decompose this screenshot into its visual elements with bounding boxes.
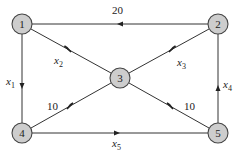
edge-label-10-left: 10 bbox=[47, 100, 59, 112]
edge-label-x2: x2 bbox=[53, 54, 63, 69]
arrow-down-icon bbox=[20, 83, 25, 89]
node-4: 4 bbox=[12, 123, 32, 143]
edge-label-x3: x3 bbox=[176, 56, 186, 71]
arrow-left-icon bbox=[117, 22, 123, 27]
flow-network-diagram: 20 x2 x3 x1 10 10 x5 x4 bbox=[0, 0, 240, 164]
node-1: 1 bbox=[12, 14, 32, 34]
arrow-up-icon bbox=[216, 85, 221, 91]
node-5-label: 5 bbox=[215, 127, 221, 139]
node-2: 2 bbox=[208, 14, 228, 34]
edge-label-10-right: 10 bbox=[184, 100, 196, 112]
edge-label-x4: x4 bbox=[222, 78, 232, 93]
edge-3-to-4: 10 bbox=[31, 83, 111, 128]
edge-4-to-5: x5 bbox=[32, 131, 208, 153]
node-3: 3 bbox=[110, 68, 130, 88]
edge-1-to-4: x1 bbox=[5, 34, 25, 123]
arrow-icon bbox=[67, 103, 73, 109]
node-3-label: 3 bbox=[117, 72, 123, 84]
arrow-right-icon bbox=[114, 131, 120, 136]
edge-label-20: 20 bbox=[112, 4, 124, 16]
edge-label-x1: x1 bbox=[5, 75, 15, 90]
arrow-icon bbox=[65, 46, 72, 52]
edge-2-to-3: x3 bbox=[129, 29, 209, 73]
edge-1-to-3: x2 bbox=[31, 29, 111, 73]
node-2-label: 2 bbox=[215, 18, 221, 30]
edge-3-to-5: 10 bbox=[129, 83, 209, 128]
node-4-label: 4 bbox=[19, 127, 25, 139]
edge-2-to-1: 20 bbox=[32, 4, 208, 27]
arrow-icon bbox=[167, 103, 173, 109]
arrow-icon bbox=[169, 46, 176, 52]
edge-5-to-2: x4 bbox=[216, 34, 232, 123]
node-5: 5 bbox=[208, 123, 228, 143]
edge-label-x5: x5 bbox=[111, 137, 121, 152]
node-1-label: 1 bbox=[19, 18, 25, 30]
